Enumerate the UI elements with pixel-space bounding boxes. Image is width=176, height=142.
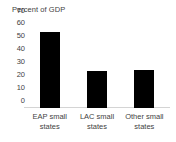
y-axis-tick-label: 50 bbox=[17, 32, 25, 40]
plot-area: 010203040506070 bbox=[28, 18, 170, 108]
y-axis-tick-label: 10 bbox=[17, 84, 25, 92]
bar bbox=[87, 71, 107, 108]
y-axis-tick-label: 0 bbox=[21, 97, 25, 105]
x-axis-category-label: Other small states bbox=[116, 112, 172, 132]
y-axis-tick-label: 70 bbox=[17, 7, 25, 15]
bar bbox=[134, 70, 154, 108]
y-axis-tick-label: 40 bbox=[17, 45, 25, 53]
bar bbox=[40, 32, 60, 108]
bar-chart: Percent of GDP 010203040506070 EAP small… bbox=[0, 0, 176, 142]
y-axis-tick-label: 60 bbox=[17, 20, 25, 28]
y-axis-tick-label: 20 bbox=[17, 71, 25, 79]
y-axis-tick-label: 30 bbox=[17, 58, 25, 66]
